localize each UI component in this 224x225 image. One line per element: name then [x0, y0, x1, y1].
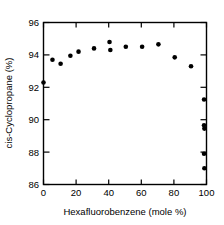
data-point [107, 40, 112, 45]
x-tick-label: 20 [71, 187, 82, 198]
x-tick-label: 60 [136, 187, 147, 198]
y-axis-tick-labels: 868890929496 [28, 17, 39, 190]
y-tick-label: 92 [28, 82, 39, 93]
data-point [156, 42, 161, 47]
x-tick-label: 40 [103, 187, 114, 198]
data-point [202, 166, 207, 171]
x-tick-label: 80 [169, 187, 180, 198]
data-point [202, 151, 207, 156]
data-point [76, 49, 81, 54]
y-tick-label: 94 [28, 49, 39, 60]
y-tick-label: 90 [28, 114, 39, 125]
data-point [202, 126, 207, 131]
y-tick-label: 86 [28, 179, 39, 190]
x-tick-label: 100 [199, 187, 215, 198]
data-point [58, 62, 63, 67]
data-point [140, 45, 145, 50]
x-axis-tick-labels: 020406080100 [41, 187, 215, 198]
data-point [41, 80, 46, 85]
data-point [92, 46, 97, 51]
data-point [68, 53, 73, 58]
x-axis-title: Hexafluorobenzene (mole %) [63, 206, 186, 217]
data-point [108, 48, 113, 53]
y-tick-label: 88 [28, 147, 39, 158]
y-axis-title: cis-Cyclopropane (%) [3, 58, 14, 149]
scatter-plot: 020406080100 868890929496 Hexafluorobenz… [0, 0, 224, 225]
data-point-series [41, 40, 206, 171]
data-point [189, 64, 194, 69]
y-tick-label: 96 [28, 17, 39, 28]
data-point [202, 97, 207, 102]
data-point [50, 57, 55, 62]
data-point [172, 55, 177, 60]
data-point [124, 45, 129, 50]
x-tick-label: 0 [41, 187, 46, 198]
chart-figure: 020406080100 868890929496 Hexafluorobenz… [0, 0, 224, 225]
